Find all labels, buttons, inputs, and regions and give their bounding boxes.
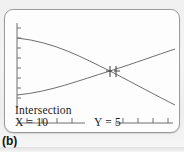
intersection-y-value: Y = 5 — [94, 116, 121, 128]
curve-increasing — [17, 49, 175, 95]
calculator-screen: Intersection X = 10 Y = 5 — [4, 9, 180, 133]
figure-panel: Intersection X = 10 Y = 5 (b) — [0, 0, 184, 152]
curve-decreasing — [17, 38, 175, 105]
intersection-x-value: X = 10 — [15, 116, 48, 128]
intersection-label: Intersection — [15, 104, 72, 116]
figure-caption: (b) — [2, 134, 17, 148]
scan-edge-band — [0, 147, 184, 152]
